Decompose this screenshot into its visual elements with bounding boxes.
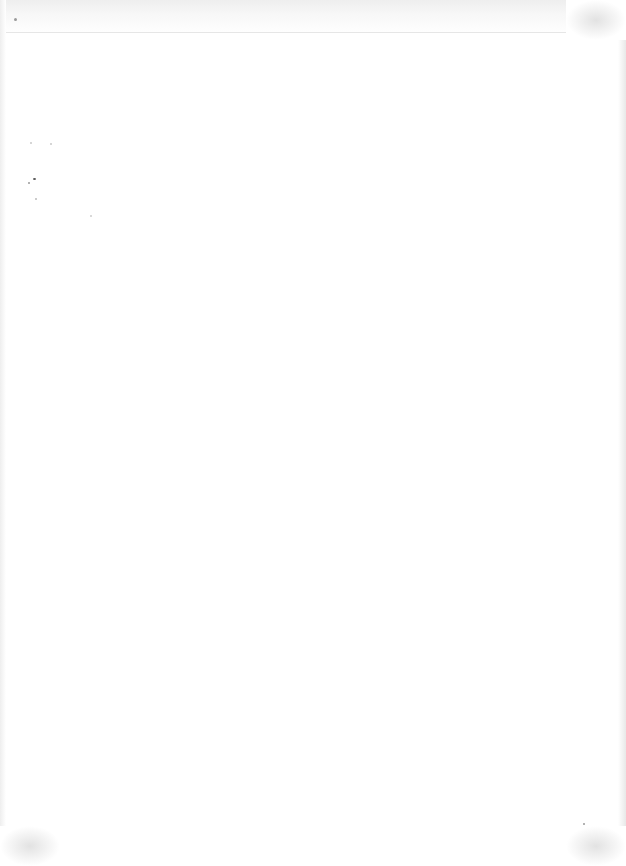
scan-corner-noise — [566, 826, 626, 866]
scan-corner-noise — [566, 0, 626, 40]
scan-speck — [33, 178, 36, 180]
scan-top-rule — [0, 32, 626, 33]
scan-speck — [50, 143, 52, 145]
scan-corner-noise — [0, 826, 60, 866]
scan-speck — [30, 142, 32, 144]
scan-speck — [90, 215, 92, 217]
scan-speck — [14, 18, 17, 21]
scan-speck — [583, 823, 585, 825]
scan-right-edge — [618, 0, 626, 866]
scan-speck — [28, 182, 30, 184]
scan-top-edge-noise — [0, 0, 626, 34]
blank-scanned-page — [0, 0, 626, 866]
scan-left-edge — [0, 0, 6, 866]
scan-speck — [35, 198, 37, 200]
